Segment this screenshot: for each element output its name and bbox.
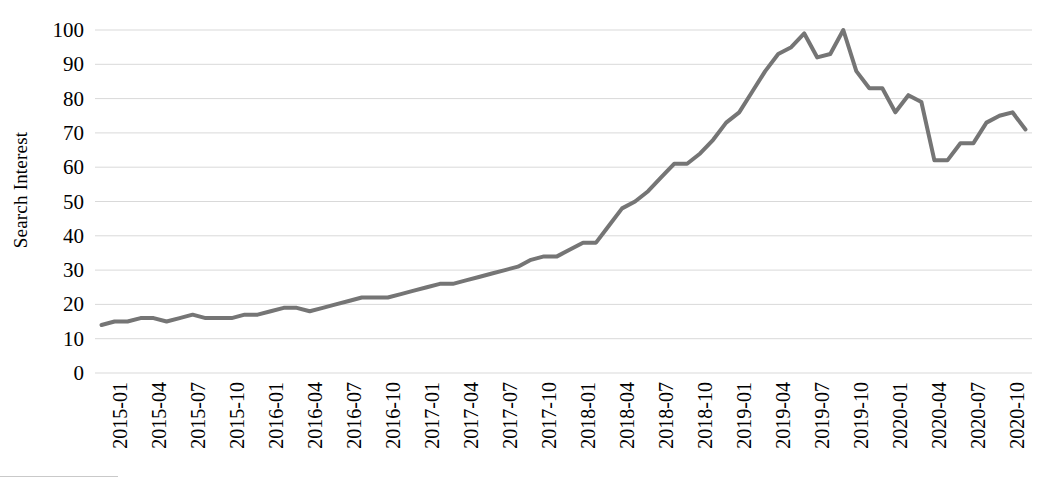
x-tick-label: 2016-10 bbox=[383, 382, 403, 449]
x-tick-label: 2017-10 bbox=[539, 382, 559, 449]
x-tick-label: 2016-01 bbox=[266, 382, 286, 449]
x-tick-label: 2018-01 bbox=[578, 382, 598, 449]
x-tick-label: 2019-01 bbox=[734, 382, 754, 449]
bottom-rule bbox=[0, 476, 118, 477]
x-tick-label: 2019-07 bbox=[812, 382, 832, 449]
search-interest-line-chart: Search Interest 1009080706050403020100 2… bbox=[0, 0, 1051, 480]
x-tick-label: 2020-01 bbox=[890, 382, 910, 449]
x-tick-label: 2015-04 bbox=[149, 382, 169, 449]
x-tick-label: 2018-04 bbox=[617, 382, 637, 449]
x-tick-label: 2015-01 bbox=[110, 382, 130, 449]
x-tick-label: 2018-10 bbox=[695, 382, 715, 449]
x-tick-label: 2020-10 bbox=[1007, 382, 1027, 449]
x-tick-label: 2020-07 bbox=[968, 382, 988, 449]
x-axis-tick-labels: 2015-012015-042015-072015-102016-012016-… bbox=[0, 0, 1051, 480]
x-tick-label: 2016-04 bbox=[305, 382, 325, 449]
x-tick-label: 2020-04 bbox=[929, 382, 949, 449]
x-tick-label: 2017-07 bbox=[500, 382, 520, 449]
x-tick-label: 2015-10 bbox=[227, 382, 247, 449]
x-tick-label: 2019-04 bbox=[773, 382, 793, 449]
x-tick-label: 2016-07 bbox=[344, 382, 364, 449]
x-tick-label: 2019-10 bbox=[851, 382, 871, 449]
x-tick-label: 2015-07 bbox=[188, 382, 208, 449]
x-tick-label: 2017-01 bbox=[422, 382, 442, 449]
x-tick-label: 2018-07 bbox=[656, 382, 676, 449]
x-tick-label: 2017-04 bbox=[461, 382, 481, 449]
